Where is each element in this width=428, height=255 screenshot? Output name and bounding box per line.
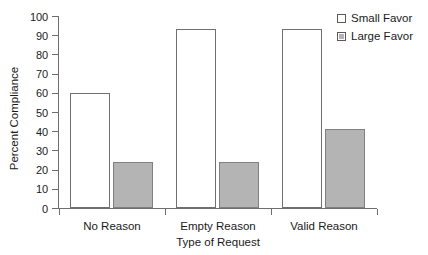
bar-small-favor-empty-reason xyxy=(176,29,216,208)
y-axis-tick-mark xyxy=(52,170,59,171)
legend-label-large-favor: Large Favor xyxy=(351,30,413,43)
bar-small-favor-no-reason xyxy=(70,93,110,208)
y-axis-tick-label: 20 xyxy=(36,165,48,176)
x-axis-title: Type of Request xyxy=(176,236,260,249)
y-axis-tick-label: 80 xyxy=(36,49,48,60)
y-axis-tick-label: 90 xyxy=(36,30,48,41)
y-axis-tick-mark xyxy=(52,54,59,55)
legend: Small Favor Large Favor xyxy=(337,10,413,46)
bar-small-favor-valid-reason xyxy=(282,29,322,208)
y-axis-tick-label: 70 xyxy=(36,69,48,80)
x-axis-tick-mark xyxy=(377,209,378,215)
y-axis-tick-mark xyxy=(52,16,59,17)
y-axis-tick-label: 40 xyxy=(36,126,48,137)
y-axis-tick-mark xyxy=(52,35,59,36)
x-axis-line xyxy=(58,208,377,209)
filled-square-swatch-icon xyxy=(337,32,346,41)
legend-item-small-favor: Small Favor xyxy=(337,10,413,26)
y-axis-tick-mark xyxy=(52,93,59,94)
y-axis-tick-mark xyxy=(52,74,59,75)
x-axis-category-label: No Reason xyxy=(83,220,141,233)
open-square-swatch-icon xyxy=(337,14,346,23)
x-axis-tick-mark xyxy=(59,209,60,215)
x-axis-category-label: Empty Reason xyxy=(180,220,255,233)
y-axis-tick-label: 100 xyxy=(30,11,48,22)
plot-area xyxy=(59,16,377,208)
y-axis-tick-label: 10 xyxy=(36,184,48,195)
y-axis-tick-label: 0 xyxy=(42,203,48,214)
x-axis-category-label: Valid Reason xyxy=(290,220,358,233)
y-axis-tick-mark xyxy=(52,189,59,190)
y-axis-tick-label: 30 xyxy=(36,145,48,156)
y-axis-tick-mark xyxy=(52,112,59,113)
y-axis-tick-mark xyxy=(52,131,59,132)
y-axis-tick-label: 60 xyxy=(36,88,48,99)
bar-large-favor-no-reason xyxy=(113,162,153,208)
x-axis-tick-mark xyxy=(165,209,166,215)
x-axis-tick-mark xyxy=(271,209,272,215)
bar-chart: 0102030405060708090100 Percent Complianc… xyxy=(0,0,428,255)
bar-large-favor-empty-reason xyxy=(219,162,259,208)
y-axis-tick-label: 50 xyxy=(36,107,48,118)
y-axis-tick-mark xyxy=(52,150,59,151)
y-axis-title: Percent Compliance xyxy=(8,59,21,179)
legend-item-large-favor: Large Favor xyxy=(337,28,413,44)
legend-label-small-favor: Small Favor xyxy=(351,12,412,25)
bar-large-favor-valid-reason xyxy=(325,129,365,208)
